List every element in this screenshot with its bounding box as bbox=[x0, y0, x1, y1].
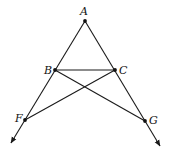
point-b bbox=[53, 68, 57, 72]
geometry-diagram: ABCFG bbox=[0, 0, 170, 160]
segment-cf bbox=[25, 70, 115, 120]
label-c: C bbox=[119, 64, 128, 77]
point-c bbox=[113, 68, 117, 72]
point-a bbox=[83, 19, 87, 23]
point-g bbox=[143, 119, 147, 123]
label-b: B bbox=[43, 64, 52, 77]
label-g: G bbox=[149, 114, 158, 127]
label-a: A bbox=[79, 5, 88, 18]
label-f: F bbox=[14, 112, 23, 125]
point-f bbox=[23, 118, 27, 122]
ray-Acg bbox=[85, 21, 160, 146]
